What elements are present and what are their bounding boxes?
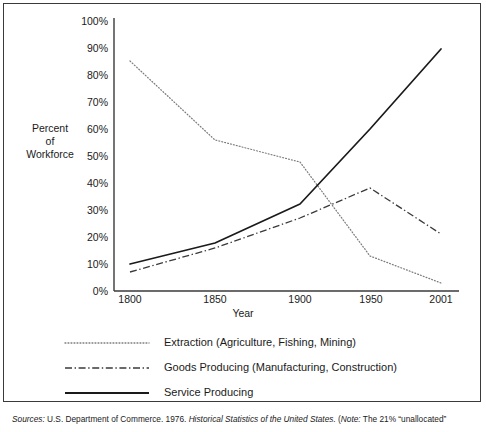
sources-note: Sources: U.S. Department of Commerce. 19… <box>12 414 478 425</box>
legend-label-service-producing: Service Producing <box>164 386 253 398</box>
sources-label: Sources: <box>12 414 45 424</box>
legend-swatch-dotted-icon <box>64 336 150 350</box>
sources-text-3: The 21% “unallocated” <box>361 414 447 424</box>
x-tick-label-1900: 1900 <box>270 293 330 305</box>
chart-plot-area: Percent of Workforce 100% 90% 80% 70% 60… <box>4 4 482 334</box>
x-axis-title: Year <box>4 307 482 319</box>
x-tick-label-1850: 1850 <box>185 293 245 305</box>
sources-title: Historical Statistics of the United Stat… <box>189 414 336 424</box>
series-line-goods-producing <box>130 188 441 272</box>
legend-label-extraction: Extraction (Agriculture, Fishing, Mining… <box>164 336 356 348</box>
legend-swatch-solid-icon <box>64 386 150 400</box>
line-chart-svg <box>4 4 482 304</box>
legend-swatch-dashdot-icon <box>64 361 150 375</box>
series-line-extraction <box>130 61 441 283</box>
figure-border: Percent of Workforce 100% 90% 80% 70% 60… <box>3 3 481 402</box>
series-line-service-producing <box>130 49 441 264</box>
sources-note-label: Note: <box>341 414 361 424</box>
sources-text-1: U.S. Department of Commerce. 1976. <box>45 414 189 424</box>
x-tick-label-2001: 2001 <box>411 293 471 305</box>
legend-label-goods-producing: Goods Producing (Manufacturing, Construc… <box>164 361 397 373</box>
chart-legend: Extraction (Agriculture, Fishing, Mining… <box>4 334 482 400</box>
x-tick-label-1950: 1950 <box>341 293 401 305</box>
x-tick-label-1800: 1800 <box>100 293 160 305</box>
